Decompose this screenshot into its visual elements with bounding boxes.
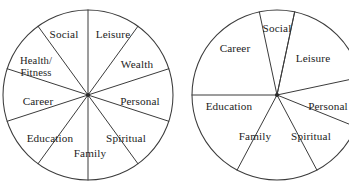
segment-label-leisure-left: Leisure [96,28,131,40]
segment-label-career-left: Career [23,95,54,107]
left-wheel-hub [86,93,90,97]
segment-label-spiritual-left: Spiritual [106,132,146,144]
right-wheel-group: Social Career Leisure Education Personal… [192,10,349,180]
segment-label-social-right: Social [263,22,292,34]
diagram-canvas: Leisure Wealth Personal Spiritual Family… [0,0,349,188]
segment-label-personal-left: Personal [120,95,160,107]
segment-label-personal-right: Personal [308,100,348,112]
left-wheel-group: Leisure Wealth Personal Spiritual Family… [3,10,173,180]
right-wheel-hub [275,93,279,97]
segment-label-social-left: Social [50,28,79,40]
segment-label-family-left: Family [74,147,107,159]
segment-label-career-right: Career [220,42,251,54]
segment-label-leisure-right: Leisure [296,52,331,64]
wheel-of-life-figure: Leisure Wealth Personal Spiritual Family… [0,0,349,188]
segment-label-wealth-left: Wealth [121,58,154,70]
segment-label-spiritual-right: Spiritual [291,130,331,142]
segment-label-education-left: Education [27,132,74,144]
segment-label-education-right: Education [206,100,253,112]
segment-label-family-right: Family [239,130,272,142]
segment-label-health-left-line1: Health/ [20,55,52,66]
segment-label-health-left-line2: Fitness [20,67,51,78]
